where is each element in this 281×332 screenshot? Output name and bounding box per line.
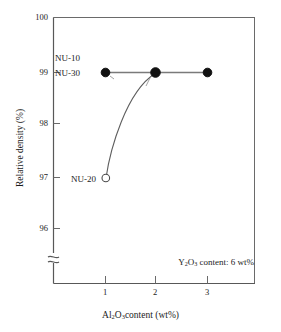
point-label-nu20: NU-20 <box>40 175 96 184</box>
x-axis-title-pre: Al <box>102 310 112 320</box>
annotation-post: content: 6 wt% <box>197 257 254 267</box>
x-axis-title: Al2O3content (wt%) <box>0 311 281 321</box>
y-tick-marks <box>54 18 61 229</box>
chart-figure: 100 99 98 97 96 1 2 3 Al2O3content (wt%)… <box>0 0 281 332</box>
x-axis-title-post: content (wt%) <box>125 310 179 320</box>
y-axis-title-container: Relative density (%) <box>16 68 32 228</box>
leader-nu30 <box>110 76 114 79</box>
x-tick-label-2: 2 <box>147 288 163 297</box>
marker-nu10-x2 <box>151 68 161 78</box>
annotation-y2o3-content: Y2O3 content: 6 wt% <box>140 258 254 267</box>
marker-nu10-x3 <box>203 68 212 77</box>
point-label-nu30: NU-30 <box>24 69 80 78</box>
x-axis-title-mid: O <box>115 310 122 320</box>
y-tick-label-100: 100 <box>26 13 48 22</box>
x-tick-label-3: 3 <box>199 288 215 297</box>
marker-nu20-x1 <box>102 174 110 182</box>
series-curve-nu20 <box>106 74 155 179</box>
x-tick-marks <box>106 276 208 284</box>
axis-frame <box>54 18 256 284</box>
y-axis-break-icon <box>48 256 59 262</box>
point-label-nu10: NU-10 <box>24 54 80 63</box>
chart-canvas <box>0 0 281 332</box>
marker-nu10-x1 <box>101 68 110 77</box>
y-axis-title: Relative density (%) <box>16 68 26 228</box>
x-tick-label-1: 1 <box>97 288 113 297</box>
